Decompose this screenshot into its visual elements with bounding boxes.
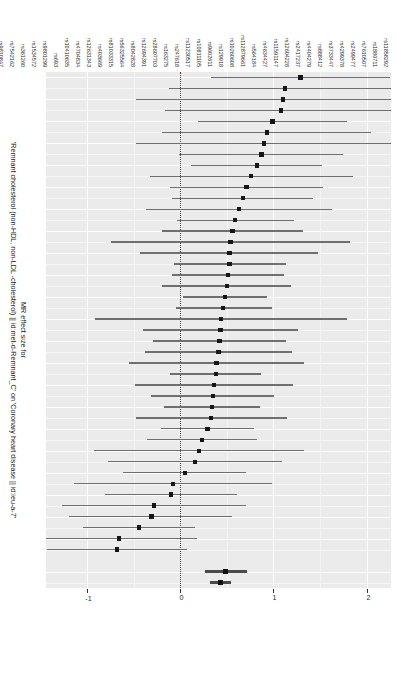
point-estimate (241, 196, 245, 200)
point-estimate (244, 185, 248, 189)
point-estimate (209, 416, 213, 420)
snp-row-label: rs56325564 (119, 38, 125, 67)
snp-row-label: rs1534572 (31, 41, 37, 67)
snp-row-label: rs10260608 (229, 38, 235, 67)
axis-title-line2: 'Remnant cholesterol (non-HDL, non-LDL -… (9, 72, 18, 588)
point-estimate (221, 306, 225, 310)
snp-row-label: rs9810847 (0, 41, 4, 67)
point-estimate (197, 449, 201, 453)
snp-row-label: rs693 (53, 53, 59, 67)
figure-canvas: -1012 rs11858292rs1880711rs7610507rs2499… (0, 0, 399, 684)
confidence-interval (169, 88, 391, 89)
point-estimate (183, 471, 187, 475)
point-estimate (226, 273, 230, 277)
point-estimate (193, 460, 197, 464)
snp-row-label: rs7542162 (9, 41, 15, 67)
snp-row-label: rs81033315 (108, 38, 114, 67)
snp-row-label: rs1880711 (372, 41, 378, 67)
point-estimate (152, 503, 156, 507)
point-estimate (205, 427, 209, 431)
snp-row-label: rs10811105 (196, 39, 202, 67)
snp-row-label: rs10410635 (64, 38, 70, 67)
point-estimate (225, 284, 229, 288)
axis-title-line1: MR effect size for (19, 72, 28, 588)
point-estimate (214, 372, 218, 376)
point-estimate (216, 350, 220, 354)
snp-row-label: rs129918 (218, 44, 224, 67)
snp-row-label: rs12694391 (141, 38, 147, 67)
point-estimate (169, 492, 173, 496)
point-estimate (233, 218, 237, 222)
snp-row-label: rs112879661 (240, 35, 246, 67)
snp-row-label: rs7610507 (361, 41, 367, 67)
point-estimate (223, 295, 227, 299)
point-estimate (249, 174, 253, 178)
snp-row-label: rs11858292 (383, 38, 389, 67)
point-estimate (228, 240, 232, 244)
snp-row-label: rs361260 (20, 44, 26, 67)
value-gridline (367, 72, 368, 588)
snp-row-label: rs4299378 (339, 41, 345, 67)
plot-panel (46, 72, 391, 588)
point-estimate (262, 141, 266, 145)
point-estimate (171, 482, 175, 486)
snp-row-label: rs2417237 (295, 41, 301, 67)
snp-row-label: rs4404279 (306, 41, 312, 67)
snp-row-label: rs28607703 (152, 38, 158, 67)
forest-plot-figure: -1012 rs11858292rs1880711rs7610507rs2499… (0, 0, 399, 684)
snp-row-label: rs12631343 (86, 38, 92, 67)
value-gridline-minor (320, 72, 321, 588)
axis-tick-label: 1 (273, 593, 277, 602)
point-estimate (211, 394, 215, 398)
snp-row-label: rs11230517 (185, 38, 191, 67)
axis-tick-label: -1 (85, 594, 91, 603)
snp-row-label: rs9602611 (207, 41, 213, 67)
point-estimate (255, 163, 259, 167)
point-estimate (210, 405, 214, 409)
value-gridline-minor (134, 72, 135, 588)
confidence-interval (46, 538, 197, 539)
snp-row-label: rs247618 (174, 44, 180, 67)
point-estimate (137, 525, 141, 529)
snp-row-label: rs403669 (97, 44, 103, 67)
point-estimate (228, 262, 232, 266)
snp-row-label: rs11591147 (273, 39, 279, 67)
point-estimate (237, 207, 241, 211)
point-estimate (149, 514, 153, 518)
point-estimate (265, 130, 269, 134)
point-estimate (270, 119, 274, 123)
point-estimate (117, 536, 121, 540)
point-estimate (219, 317, 223, 321)
point-estimate (218, 328, 222, 332)
confidence-interval (136, 99, 391, 100)
point-estimate (298, 75, 302, 79)
point-estimate (279, 108, 283, 112)
point-estimate (223, 569, 228, 574)
axis-tick-label: 0 (180, 593, 184, 602)
point-estimate (218, 580, 223, 585)
point-estimate (115, 547, 119, 551)
snp-row-label: rs4634427 (262, 41, 268, 67)
snp-row-label: rs8042828 (130, 41, 136, 67)
snp-row-label: rs4704834 (75, 41, 81, 67)
axis-tick-label: 2 (366, 593, 370, 602)
snp-row-label: rs2499477 (350, 41, 356, 67)
snp-row-label: rs564184 (251, 44, 257, 67)
snp-row-label: rs3733447 (328, 41, 334, 67)
point-estimate (217, 339, 221, 343)
snp-row-label: rs888412 (317, 44, 323, 67)
point-estimate (228, 251, 232, 255)
point-estimate (200, 438, 204, 442)
point-estimate (281, 97, 285, 101)
point-estimate (283, 86, 287, 90)
point-estimate (212, 383, 216, 387)
snp-row-label: rs12604228 (284, 38, 290, 67)
point-estimate (230, 229, 234, 233)
point-estimate (214, 361, 218, 365)
value-gridline (87, 72, 88, 588)
point-estimate (259, 152, 263, 156)
snp-row-label: rs163275 (163, 44, 169, 67)
axis-tick (87, 589, 88, 593)
snp-row-label: rs9801299 (42, 41, 48, 67)
